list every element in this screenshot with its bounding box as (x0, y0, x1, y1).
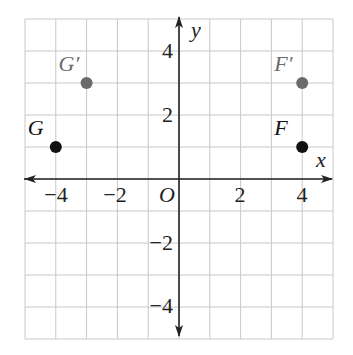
x-tick-label: 4 (297, 182, 308, 207)
point-g-label: G (28, 115, 44, 140)
coordinate-plane: x y O −4 −2 2 4 4 2 −2 −4 G G′ F F′ (0, 0, 353, 355)
point-g (50, 141, 62, 153)
y-tick-label: 2 (162, 102, 173, 127)
x-axis-label: x (315, 147, 326, 172)
y-tick-label: −2 (150, 230, 173, 255)
point-g-prime (81, 77, 93, 89)
y-axis-label: y (189, 17, 201, 42)
point-f-label: F (273, 115, 288, 140)
point-f-prime (296, 77, 308, 89)
x-tick-label: 2 (235, 182, 246, 207)
x-tick-label: −4 (44, 182, 67, 207)
x-tick-label: −2 (103, 182, 126, 207)
point-g-prime-label: G′ (59, 51, 81, 76)
y-tick-label: −4 (150, 293, 173, 318)
y-tick-label: 4 (162, 38, 173, 63)
point-f-prime-label: F′ (273, 51, 293, 76)
point-f (296, 141, 308, 153)
origin-label: O (159, 182, 175, 207)
